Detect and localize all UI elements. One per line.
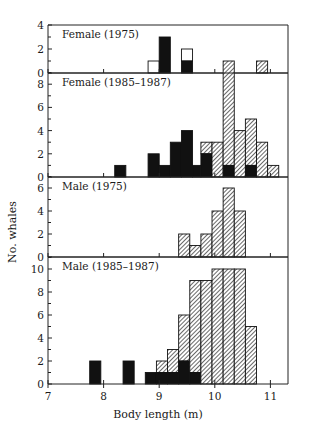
y-tick-label: 10 [31,263,44,275]
y-tick-label: 6 [37,309,44,321]
y-tick-label: 4 [37,125,44,137]
histogram-bar [201,142,212,177]
histogram-bar [181,131,192,177]
panel-title: Female (1975) [62,28,139,40]
histogram-bar [234,269,245,384]
histogram-bar [168,350,179,385]
y-tick-label: 6 [37,101,44,113]
histogram-bar [201,281,212,385]
y-tick-label: 2 [37,148,44,160]
y-axis-label: No. whales [6,201,19,263]
histogram-bar [148,154,159,177]
panel-3: 0246Male (1975) [37,177,288,264]
histogram-bar [223,269,234,384]
panel-1: 024Female (1975) [37,19,288,79]
panel-2: 02468Female (1985–1987) [37,61,288,183]
panel-title: Male (1975) [62,180,127,192]
y-tick-label: 8 [37,78,44,90]
histogram-bar [201,234,212,257]
histogram-bar [179,234,190,257]
histogram-bar [245,327,256,385]
panel-title: Male (1985–1987) [62,260,159,272]
histogram-bar [223,188,234,257]
x-tick-label: 9 [156,390,163,402]
histogram-bar [190,246,201,258]
x-tick-label: 10 [208,390,221,402]
histogram-bar [193,165,201,177]
histogram-bar [156,361,167,384]
panel-title: Female (1985–1987) [62,76,171,88]
y-tick-label: 2 [37,43,44,55]
histogram-bar [115,165,126,177]
y-tick-label: 0 [37,378,44,390]
histogram-bar [145,373,156,385]
y-tick-label: 2 [37,228,44,240]
y-tick-label: 4 [37,205,44,217]
panel-4: 0246810Male (1985–1987) [31,257,288,390]
histogram-bar [123,361,134,384]
histogram-bar [257,61,268,73]
x-axis: 7891011 [45,384,277,402]
y-tick-label: 0 [37,67,44,79]
histogram-bar [159,165,170,177]
histogram-bar [212,211,223,257]
y-tick-label: 0 [37,251,44,263]
x-tick-label: 7 [45,390,52,402]
histogram-bar [268,165,279,177]
histogram-figure: 024Female (1975)02468Female (1985–1987)0… [0,0,309,438]
x-axis-label: Body length (m) [113,408,203,421]
y-tick-label: 6 [37,182,44,194]
histogram-bar [179,315,190,384]
histogram-bar [159,37,170,73]
histogram-bar [234,211,245,257]
histogram-bar [257,142,268,177]
y-tick-label: 4 [37,332,44,344]
histogram-bar [148,61,159,73]
histogram-bar [212,142,223,177]
x-tick-label: 8 [100,390,107,402]
histogram-bar [223,61,234,177]
histogram-bar [181,49,192,73]
histogram-bar [245,119,256,177]
histogram-bar [190,281,201,385]
histogram-bar [234,131,245,177]
y-tick-label: 2 [37,355,44,367]
y-tick-label: 8 [37,286,44,298]
y-tick-label: 4 [37,19,44,31]
histogram-bar [212,269,223,384]
histogram-bar [90,361,101,384]
x-tick-label: 11 [264,390,277,402]
histogram-bar [170,142,181,177]
